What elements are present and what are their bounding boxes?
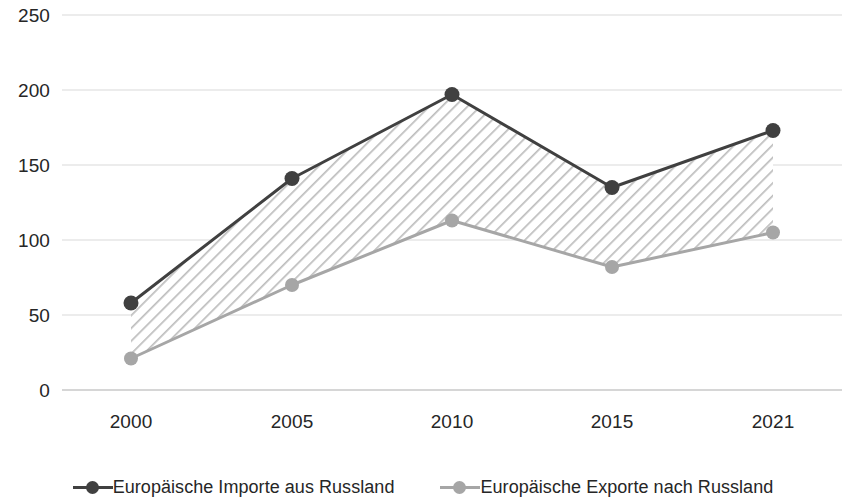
data-point: [124, 296, 139, 311]
data-point: [445, 87, 460, 102]
chart-container: 250 200 150 100 50 0 2000 2005 2010 2015…: [0, 0, 846, 504]
data-point: [445, 214, 459, 228]
data-point: [605, 180, 620, 195]
data-point: [124, 352, 138, 366]
x-axis-label-2021: 2021: [723, 412, 823, 431]
data-point: [285, 171, 300, 186]
legend-item-imports[interactable]: Europäische Importe aus Russland: [73, 477, 395, 498]
data-point: [285, 278, 299, 292]
chart-legend: Europäische Importe aus Russland Europäi…: [0, 470, 846, 504]
y-axis-label-150: 150: [0, 156, 50, 175]
y-axis-label-0: 0: [0, 381, 50, 400]
legend-label-exports: Europäische Exporte nach Russland: [480, 477, 773, 498]
legend-item-exports[interactable]: Europäische Exporte nach Russland: [440, 477, 773, 498]
x-axis-label-2015: 2015: [562, 412, 662, 431]
data-point: [766, 123, 781, 138]
legend-marker-imports-icon: [73, 479, 113, 495]
y-axis-label-50: 50: [0, 306, 50, 325]
legend-label-imports: Europäische Importe aus Russland: [113, 477, 395, 498]
legend-marker-exports-icon: [440, 479, 480, 495]
y-axis-label-200: 200: [0, 81, 50, 100]
data-point: [766, 226, 780, 240]
x-axis-label-2005: 2005: [242, 412, 342, 431]
y-axis-label-250: 250: [0, 6, 50, 25]
x-axis-label-2000: 2000: [81, 412, 181, 431]
data-point: [605, 260, 619, 274]
y-axis-label-100: 100: [0, 231, 50, 250]
x-axis-label-2010: 2010: [402, 412, 502, 431]
